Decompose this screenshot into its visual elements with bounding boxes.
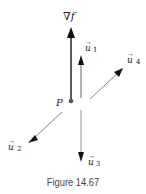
svg-text:→: → (8, 137, 15, 145)
gradient-label: ∇f (63, 10, 77, 23)
vector-u2-arrow (28, 112, 62, 143)
svg-text:→: → (88, 152, 95, 160)
vector-u4-arrow (90, 68, 123, 99)
svg-text:1: 1 (93, 46, 97, 54)
vector-u3-arrow (78, 110, 84, 162)
vector-u1-label: u → 1 (85, 38, 97, 54)
point-p (69, 99, 74, 104)
svg-text:2: 2 (17, 145, 21, 153)
vector-u2-label: u → 2 (8, 137, 21, 153)
vector-u1-arrow (78, 55, 84, 98)
svg-text:3: 3 (96, 160, 100, 168)
vector-u3-label: u → 3 (88, 152, 100, 168)
figure-caption: Figure 14.67 (11, 176, 135, 188)
vector-u4-label: u → 4 (127, 50, 141, 66)
vector-diagram: ∇f u → 1 u → 4 P u → 2 u → 3 (0, 0, 146, 194)
svg-text:→: → (127, 50, 134, 58)
gradient-arrow (67, 27, 75, 101)
svg-text:→: → (85, 38, 92, 46)
svg-text:4: 4 (136, 58, 141, 66)
point-p-label: P (55, 97, 63, 108)
